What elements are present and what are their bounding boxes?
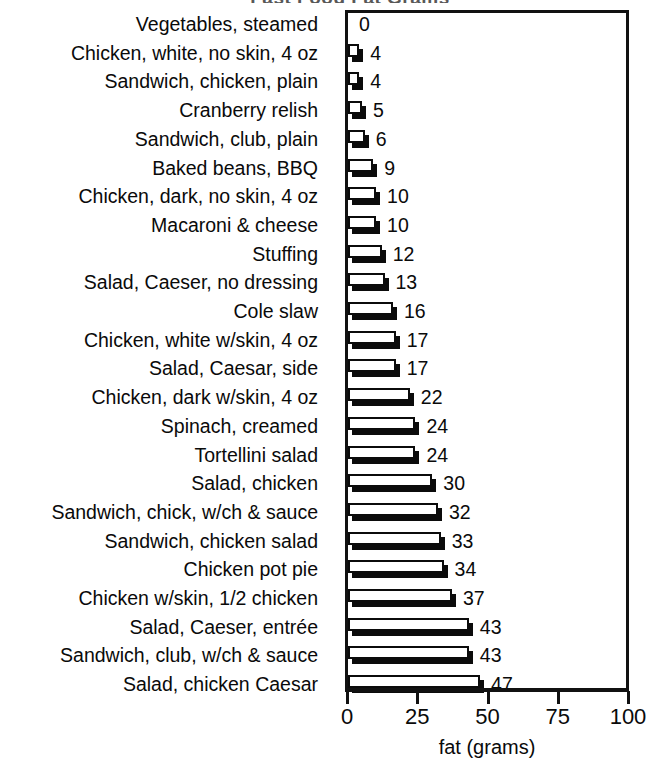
category-label: Salad, Caeser, entrée xyxy=(129,613,318,642)
bar xyxy=(348,618,475,640)
category-label: Cranberry relish xyxy=(179,96,318,125)
category-label: Chicken pot pie xyxy=(184,555,318,584)
category-label: Sandwich, chicken salad xyxy=(104,527,318,556)
bar-row: Salad, Caeser, entrée43 xyxy=(0,613,661,642)
bar-row: Sandwich, club, w/ch & sauce43 xyxy=(0,641,661,670)
bar-row: Chicken, white, no skin, 4 oz4 xyxy=(0,39,661,68)
bar-face xyxy=(348,72,359,85)
category-label: Vegetables, steamed xyxy=(136,10,318,39)
category-label: Tortellini salad xyxy=(194,441,318,470)
x-tick-label: 50 xyxy=(448,704,528,730)
category-label: Chicken, dark w/skin, 4 oz xyxy=(91,383,318,412)
x-tick xyxy=(346,691,349,704)
bar-row: Sandwich, chicken, plain4 xyxy=(0,67,661,96)
bar-value-label: 37 xyxy=(463,584,485,613)
fat-grams-bar-chart: Fast Food Fat Grams Vegetables, steamed0… xyxy=(0,0,661,767)
bar-value-label: 12 xyxy=(393,240,415,269)
bar-row: Stuffing12 xyxy=(0,240,661,269)
bar-value-label: 47 xyxy=(491,670,513,699)
bar-value-label: 43 xyxy=(480,613,502,642)
category-label: Spinach, creamed xyxy=(161,412,318,441)
bar-value-label: 9 xyxy=(384,154,395,183)
bar xyxy=(348,359,402,381)
bar xyxy=(348,72,365,94)
bar xyxy=(348,474,438,496)
bar-face xyxy=(348,532,441,545)
bar xyxy=(348,159,379,181)
category-label: Sandwich, chick, w/ch & sauce xyxy=(51,498,318,527)
bar-row: Salad, Caesar, side17 xyxy=(0,354,661,383)
bar xyxy=(348,646,475,668)
bar-face xyxy=(348,159,373,172)
bar-row: Macaroni & cheese10 xyxy=(0,211,661,240)
bar-face xyxy=(348,187,376,200)
bar-row: Sandwich, club, plain6 xyxy=(0,125,661,154)
bar-row: Salad, chicken30 xyxy=(0,469,661,498)
bar-face xyxy=(348,618,469,631)
bar-face xyxy=(348,130,365,143)
bar-value-label: 17 xyxy=(407,326,429,355)
bar xyxy=(348,273,391,295)
bar-face xyxy=(348,646,469,659)
bar-row: Baked beans, BBQ9 xyxy=(0,154,661,183)
bar-face xyxy=(348,503,438,516)
bar-value-label: 10 xyxy=(387,211,409,240)
bar xyxy=(348,560,450,582)
category-label: Chicken, dark, no skin, 4 oz xyxy=(78,182,318,211)
bar-value-label: 13 xyxy=(396,268,418,297)
bar-face xyxy=(348,560,444,573)
bar-value-label: 10 xyxy=(387,182,409,211)
x-tick xyxy=(557,691,560,704)
x-tick xyxy=(487,691,490,704)
bar xyxy=(348,388,416,410)
bar-row: Chicken, dark, no skin, 4 oz10 xyxy=(0,182,661,211)
category-label: Chicken w/skin, 1/2 chicken xyxy=(78,584,318,613)
bar-value-label: 17 xyxy=(407,354,429,383)
bar xyxy=(348,101,368,123)
bar-value-label: 24 xyxy=(426,441,448,470)
category-label: Salad, Caeser, no dressing xyxy=(84,268,318,297)
category-label: Baked beans, BBQ xyxy=(152,154,318,183)
bar-row: Cranberry relish5 xyxy=(0,96,661,125)
category-label: Sandwich, club, w/ch & sauce xyxy=(60,641,318,670)
category-label: Chicken, white, no skin, 4 oz xyxy=(71,39,318,68)
category-label: Macaroni & cheese xyxy=(151,211,318,240)
bar xyxy=(348,589,458,611)
bar-row: Cole slaw16 xyxy=(0,297,661,326)
bar-row: Sandwich, chick, w/ch & sauce32 xyxy=(0,498,661,527)
bar-face xyxy=(348,589,452,602)
bar-value-label: 0 xyxy=(359,10,370,39)
bar-row: Sandwich, chicken salad33 xyxy=(0,527,661,556)
bar-row: Salad, Caeser, no dressing13 xyxy=(0,268,661,297)
bar-face xyxy=(348,417,415,430)
bar xyxy=(348,503,444,525)
bar-value-label: 6 xyxy=(376,125,387,154)
bar xyxy=(348,44,365,66)
bar-value-label: 22 xyxy=(421,383,443,412)
bar-value-label: 34 xyxy=(455,555,477,584)
category-label: Salad, chicken xyxy=(191,469,318,498)
bar-face xyxy=(348,446,415,459)
bar xyxy=(348,302,399,324)
x-tick-label: 75 xyxy=(518,704,598,730)
bar-value-label: 24 xyxy=(426,412,448,441)
x-tick-label: 100 xyxy=(588,704,661,730)
bar-face xyxy=(348,359,396,372)
bar xyxy=(348,417,421,439)
category-label: Chicken, white w/skin, 4 oz xyxy=(84,326,318,355)
bar xyxy=(348,245,388,267)
bar-face xyxy=(348,44,359,57)
bar-value-label: 4 xyxy=(370,39,381,68)
bar-value-label: 4 xyxy=(370,67,381,96)
bar xyxy=(348,187,382,209)
bar-face xyxy=(348,474,432,487)
bar-row: Chicken w/skin, 1/2 chicken37 xyxy=(0,584,661,613)
category-label: Stuffing xyxy=(252,240,318,269)
bar-face xyxy=(348,675,480,688)
bar-value-label: 16 xyxy=(404,297,426,326)
bar-face xyxy=(348,245,382,258)
bar-value-label: 5 xyxy=(373,96,384,125)
category-label: Salad, chicken Caesar xyxy=(123,670,318,699)
bar-face xyxy=(348,216,376,229)
bar xyxy=(348,446,421,468)
